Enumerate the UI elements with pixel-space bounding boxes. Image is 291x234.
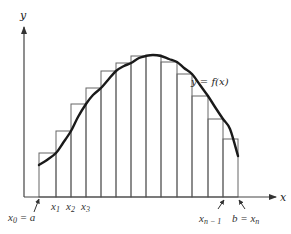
riemann-rectangle bbox=[86, 88, 101, 197]
x-axis-label: x bbox=[280, 191, 287, 204]
label-x1: x1 bbox=[51, 201, 60, 214]
diagram-canvas: y x y = f(x) bbox=[0, 0, 291, 234]
riemann-rectangle bbox=[192, 96, 208, 197]
label-x3: x3 bbox=[81, 201, 90, 214]
label-xn-minus-1: xn − 1 bbox=[199, 213, 221, 226]
riemann-rectangle bbox=[161, 62, 177, 197]
y-axis-label: y bbox=[19, 9, 27, 22]
label-x0-equals-a: x0 = a bbox=[8, 212, 35, 225]
riemann-sum-diagram: y x y = f(x) x0 = a x1 x2 x3 xn − 1 b = … bbox=[0, 0, 291, 234]
riemann-rectangle bbox=[116, 63, 131, 197]
xn-pointer-arrow bbox=[239, 200, 245, 209]
riemann-rectangle bbox=[146, 55, 161, 197]
curve-label: y = f(x) bbox=[190, 76, 229, 87]
xn-minus-1-pointer-arrow bbox=[218, 200, 224, 209]
riemann-rectangle bbox=[101, 71, 116, 197]
riemann-rectangle bbox=[177, 74, 192, 197]
label-x2: x2 bbox=[66, 201, 75, 214]
riemann-rectangle bbox=[208, 119, 223, 197]
riemann-rectangle bbox=[131, 56, 146, 197]
label-b-equals-xn: b = xn bbox=[232, 213, 259, 226]
